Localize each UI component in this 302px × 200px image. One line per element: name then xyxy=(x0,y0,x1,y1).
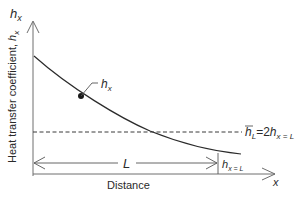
y-axis-label: Heat transfer coefficient, hx xyxy=(6,30,21,163)
y-axis xyxy=(27,21,39,176)
curve-label: hx xyxy=(101,77,113,93)
x-axis-label: Distance xyxy=(107,179,150,191)
end-value-label: hx = L xyxy=(222,158,244,172)
average-label: hL=2hx = L xyxy=(245,125,294,141)
x-axis-symbol: x xyxy=(272,176,279,188)
y-axis-symbol: hx xyxy=(10,6,22,23)
heat-transfer-diagram: hx Heat transfer coefficient, hx hx hL=2… xyxy=(0,0,302,200)
hx-curve xyxy=(34,56,241,154)
length-label: L xyxy=(123,156,130,171)
length-dimension: L xyxy=(34,156,217,171)
svg-text:hL=2hx = L: hL=2hx = L xyxy=(245,125,294,141)
